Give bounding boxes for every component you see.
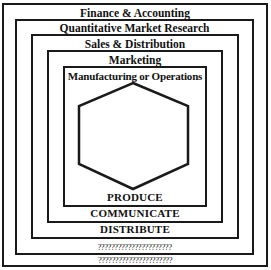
hexagon-shape: [0, 0, 271, 270]
